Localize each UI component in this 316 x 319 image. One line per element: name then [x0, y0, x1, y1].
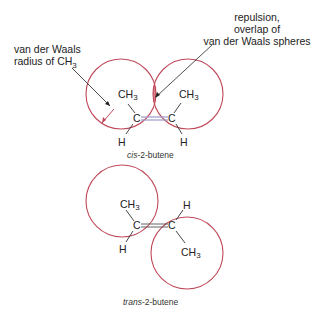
atom-ch3-cis-left: CH3 — [118, 88, 138, 102]
atom-h-cis-right: H — [180, 136, 188, 148]
leader-line-vdw — [72, 68, 110, 106]
caption-trans: trans-2-butene — [123, 297, 178, 307]
atom-ch3-trans-top: CH3 — [120, 198, 140, 212]
atom-h-trans-top: H — [183, 199, 191, 211]
caption-cis: cis-2-butene — [127, 150, 174, 160]
label-repulsion: repulsion, overlap of van der Waals sphe… — [198, 11, 316, 47]
atom-c-cis-left: C — [133, 112, 141, 124]
atom-h-trans-bottom: H — [119, 243, 127, 255]
atom-c-trans-right: C — [168, 219, 176, 231]
atom-c-cis-right: C — [168, 112, 176, 124]
atom-c-trans-left: C — [133, 219, 141, 231]
atom-ch3-trans-bottom: CH3 — [181, 246, 201, 260]
atom-ch3-cis-right: CH3 — [179, 88, 199, 102]
atom-h-cis-left: H — [118, 136, 126, 148]
label-vdw-radius: van der Waals radius of CH3 — [14, 43, 81, 72]
